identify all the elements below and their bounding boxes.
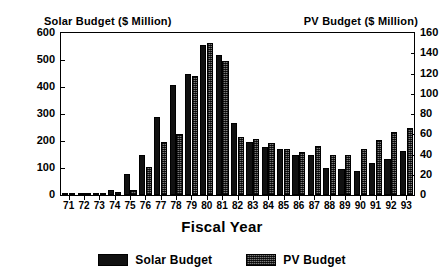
bar-solar-budget: [78, 193, 84, 195]
left-y-tick-label: 500: [37, 54, 55, 65]
bar-pv-budget: [330, 155, 336, 196]
bar-group: [368, 33, 383, 195]
bar-solar-budget: [369, 163, 375, 195]
bar-group: [61, 33, 76, 195]
bar-group: [353, 33, 368, 195]
bar-group: [199, 33, 214, 195]
left-y-tick-label: 100: [37, 162, 55, 173]
bar-pv-budget: [161, 142, 167, 195]
legend-label: Solar Budget: [135, 253, 212, 267]
bar-solar-budget: [108, 190, 114, 195]
bar-group: [261, 33, 276, 195]
bar-pv-budget: [268, 143, 274, 195]
right-y-tick-label: 20: [420, 169, 432, 180]
bar-pv-budget: [391, 132, 397, 195]
bar-solar-budget: [246, 142, 252, 195]
bar-solar-budget: [185, 74, 191, 196]
bar-group: [230, 33, 245, 195]
bar-pv-budget: [100, 193, 106, 195]
bar-pv-budget: [69, 193, 75, 195]
bar-solar-budget: [200, 45, 206, 195]
bar-solar-budget: [62, 193, 68, 195]
right-y-tick-label: 100: [420, 88, 438, 99]
bar-group: [322, 33, 337, 195]
bar-pv-budget: [115, 192, 121, 195]
bar-solar-budget: [308, 155, 314, 195]
bar-pv-budget: [207, 43, 213, 195]
chart-legend: Solar BudgetPV Budget: [0, 253, 444, 267]
legend-swatch-pv: [246, 254, 276, 266]
left-y-tick-label: 600: [37, 27, 55, 38]
bar-pv-budget: [222, 61, 228, 195]
right-y-tick-label: 160: [420, 27, 438, 38]
bar-pv-budget: [361, 149, 367, 195]
bar-group: [307, 33, 322, 195]
bar-pv-budget: [146, 167, 152, 195]
left-y-tick-label: 400: [37, 81, 55, 92]
bar-solar-budget: [354, 171, 360, 195]
bar-solar-budget: [277, 149, 283, 195]
left-axis-title: Solar Budget ($ Million): [44, 15, 172, 27]
legend-swatch-solar: [98, 254, 128, 266]
bar-group: [92, 33, 107, 195]
bar-solar-budget: [124, 174, 130, 195]
bar-group: [138, 33, 153, 195]
bar-solar-budget: [384, 159, 390, 195]
bar-pv-budget: [284, 149, 290, 195]
legend-entry: PV Budget: [246, 253, 345, 267]
x-axis-title: Fiscal Year: [0, 218, 444, 235]
bar-pv-budget: [407, 128, 413, 195]
bar-pv-budget: [238, 137, 244, 195]
right-axis-title: PV Budget ($ Million): [304, 15, 418, 27]
right-y-tick-label: 40: [420, 149, 432, 160]
bar-pv-budget: [345, 155, 351, 196]
bar-pv-budget: [376, 140, 382, 195]
bar-pv-budget: [130, 190, 136, 195]
bars-layer: [61, 33, 414, 195]
bar-solar-budget: [93, 193, 99, 195]
right-y-tick-label: 140: [420, 47, 438, 58]
bar-group: [168, 33, 183, 195]
bar-solar-budget: [323, 168, 329, 195]
bar-group: [337, 33, 352, 195]
bar-group: [184, 33, 199, 195]
left-y-tick-label: 200: [37, 135, 55, 146]
bar-group: [153, 33, 168, 195]
bar-solar-budget: [139, 155, 145, 195]
right-y-tick-label: 0: [420, 189, 426, 200]
bar-solar-budget: [400, 151, 406, 195]
right-y-tick-label: 60: [420, 128, 432, 139]
bar-group: [276, 33, 291, 195]
bar-solar-budget: [292, 155, 298, 196]
bar-group: [107, 33, 122, 195]
bar-pv-budget: [176, 134, 182, 195]
bar-group: [399, 33, 414, 195]
right-y-tick-label: 120: [420, 68, 438, 79]
bar-pv-budget: [299, 152, 305, 195]
x-tick-label: 93: [397, 200, 416, 211]
bar-solar-budget: [170, 85, 176, 195]
left-y-tick-label: 300: [37, 108, 55, 119]
bar-solar-budget: [338, 169, 344, 195]
bar-group: [214, 33, 229, 195]
legend-label: PV Budget: [283, 253, 345, 267]
bar-group: [245, 33, 260, 195]
legend-entry: Solar Budget: [98, 253, 212, 267]
bar-group: [383, 33, 398, 195]
bar-pv-budget: [253, 139, 259, 195]
bar-group: [76, 33, 91, 195]
left-y-tick-label: 0: [49, 189, 55, 200]
bar-solar-budget: [154, 117, 160, 195]
bar-solar-budget: [216, 55, 222, 195]
right-y-tick-label: 80: [420, 108, 432, 119]
bar-pv-budget: [315, 146, 321, 195]
bar-group: [291, 33, 306, 195]
bar-pv-budget: [192, 76, 198, 195]
bar-group: [122, 33, 137, 195]
bar-solar-budget: [262, 147, 268, 195]
bar-pv-budget: [84, 193, 90, 195]
bar-solar-budget: [231, 123, 237, 195]
bar-chart: Solar Budget ($ Million) PV Budget ($ Mi…: [0, 0, 444, 280]
